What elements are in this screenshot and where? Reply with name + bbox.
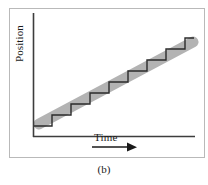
plot-canvas	[0, 0, 208, 185]
x-axis-label: Time	[94, 131, 118, 144]
y-axis-label: Position	[10, 2, 28, 62]
figure-position-vs-time: Position Time (b)	[0, 0, 208, 185]
figure-caption: (b)	[0, 163, 208, 175]
average-trend-band	[39, 42, 193, 124]
